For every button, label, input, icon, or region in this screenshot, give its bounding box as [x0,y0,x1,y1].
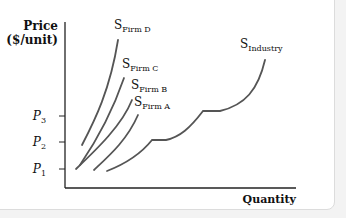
curve-industry [107,60,265,171]
y-axis-label-line2: ($/unit) [6,33,58,47]
curve-label-firm-a: SFirm A [134,95,170,111]
y-axis-label-line1: Price [23,19,58,33]
curve-label-firm-b: SFirm B [131,78,167,94]
curve-firm-c [80,78,124,165]
curve-label-firm-c: SFirm C [122,57,158,73]
curve-label-firm-d: SFirm D [114,18,151,34]
supply-curves: SFirm DSFirm CSFirm BSFirm ASIndustry [76,18,283,171]
y-tick-label-p3: P3 [32,109,46,125]
curve-firm-d [82,40,118,145]
supply-chart: Price ($/unit) Quantity P1P2P3 SFirm DSF… [0,0,346,218]
curve-firm-a [94,115,138,170]
curve-label-industry: SIndustry [240,37,283,53]
y-tick-label-p1: P1 [32,162,46,178]
y-ticks: P1P2P3 [32,109,65,178]
y-tick-label-p2: P2 [32,135,46,151]
x-axis-label: Quantity [243,193,297,206]
